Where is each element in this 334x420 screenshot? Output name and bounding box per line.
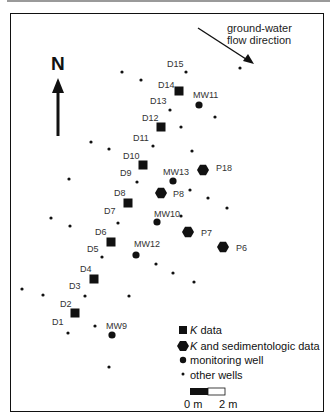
other-well-marker — [20, 287, 23, 290]
other-well-marker — [154, 262, 157, 265]
square-marker-icon — [179, 326, 187, 334]
hexagon-marker-icon — [177, 341, 189, 351]
well-label: D6 — [95, 227, 107, 237]
well-label: D10 — [123, 151, 140, 161]
other-well-marker — [184, 70, 187, 73]
k-data-well-marker — [107, 238, 116, 247]
other-well-marker — [190, 149, 193, 152]
well-label: D13 — [150, 96, 167, 106]
north-arrow-icon — [52, 78, 64, 93]
other-well-marker — [116, 221, 119, 224]
well-label: MW12 — [134, 239, 160, 249]
other-well-marker — [225, 206, 228, 209]
well-label: P6 — [236, 243, 247, 253]
other-well-marker — [135, 180, 138, 183]
k-data-well-marker — [139, 161, 148, 170]
well-label: P8 — [173, 189, 184, 199]
legend-item-other-wells: other wells — [182, 369, 244, 381]
well-label: P18 — [216, 163, 232, 173]
scale-bar: 0 m 2 m — [184, 388, 237, 410]
other-well-marker — [171, 271, 174, 274]
k-data-well-marker — [175, 87, 184, 96]
other-well-marker — [68, 224, 71, 227]
monitoring-well-marker — [132, 251, 139, 258]
k-data-well-marker — [71, 309, 80, 318]
other-well-marker — [213, 115, 216, 118]
well-label: P7 — [201, 228, 212, 238]
legend-label: other wells — [190, 369, 243, 381]
legend-item-monitoring-well: monitoring well — [180, 354, 264, 366]
circle-marker-icon — [180, 357, 186, 363]
other-well-marker — [168, 108, 171, 111]
other-well-marker — [93, 324, 96, 327]
well-label: D7 — [104, 206, 116, 216]
other-well-marker — [107, 365, 110, 368]
k-sed-well-marker — [155, 188, 167, 198]
other-well-marker — [120, 70, 123, 73]
well-label: D2 — [60, 299, 72, 309]
legend-label: data — [197, 324, 222, 336]
flow-label-line2: flow direction — [227, 34, 291, 46]
scale-bar-black — [190, 388, 208, 395]
other-well-marker — [107, 147, 110, 150]
other-well-marker — [67, 177, 70, 180]
other-well-marker — [66, 331, 69, 334]
dot-marker-icon — [182, 373, 185, 376]
other-well-marker — [100, 255, 103, 258]
scale-bar-white — [208, 388, 225, 395]
svg-text:K and sedimentologic data: K and sedimentologic data — [190, 340, 321, 352]
monitoring-well-marker — [153, 218, 160, 225]
other-well-marker — [49, 216, 52, 219]
other-well-marker — [192, 280, 195, 283]
well-label: D12 — [142, 113, 159, 123]
flow-label-line1: ground-water — [227, 22, 292, 34]
k-sed-well-marker — [217, 242, 229, 252]
k-data-well-marker — [124, 199, 133, 208]
well-label: D11 — [133, 133, 149, 143]
well-label: MW9 — [106, 321, 127, 331]
well-label: MW10 — [154, 209, 180, 219]
north-label: N — [51, 53, 65, 74]
monitoring-well-marker — [169, 177, 176, 184]
legend: K data K and sedimentologic data monitor… — [177, 324, 321, 410]
monitoring-well-marker — [195, 101, 202, 108]
other-well-marker — [151, 144, 154, 147]
k-data-well-marker — [90, 275, 99, 284]
well-label: D5 — [87, 244, 99, 254]
flow-arrow-icon — [243, 54, 254, 64]
well-label: D15 — [167, 59, 184, 69]
well-label: MW11 — [193, 90, 218, 100]
other-well-marker — [206, 196, 209, 199]
other-well-marker — [83, 294, 86, 297]
well-label: D14 — [158, 80, 175, 90]
legend-label: and sedimentologic data — [197, 340, 320, 352]
well-label: D3 — [69, 281, 81, 291]
well-label: D9 — [120, 168, 132, 178]
other-well-marker — [41, 293, 44, 296]
other-well-marker — [89, 140, 92, 143]
other-well-marker — [238, 66, 241, 69]
flow-direction: ground-water flow direction — [198, 22, 292, 64]
well-label: D4 — [80, 264, 92, 274]
well-label: D8 — [114, 188, 126, 198]
k-sed-well-marker — [182, 227, 194, 237]
well-label: D1 — [52, 317, 64, 327]
legend-label: monitoring well — [190, 354, 263, 366]
other-well-marker — [179, 125, 182, 128]
north-arrow: N — [51, 53, 65, 136]
monitoring-well-marker — [108, 331, 115, 338]
legend-item-k-data: K data — [179, 324, 223, 336]
svg-text:K data: K data — [190, 324, 223, 336]
well-labels: D14D12D10D8D6D4D2P18P8P7P6MW11MW13MW10MW… — [52, 59, 247, 331]
k-sed-well-marker — [197, 165, 209, 175]
k-data-well-marker — [157, 123, 166, 132]
other-well-marker — [188, 188, 191, 191]
scale-label-0: 0 m — [184, 398, 202, 410]
scale-label-2: 2 m — [219, 398, 237, 410]
other-well-marker — [139, 78, 142, 81]
legend-item-k-sed-data: K and sedimentologic data — [177, 340, 321, 352]
well-map: N ground-water flow direction D14D12D10D… — [0, 0, 334, 420]
well-label: MW13 — [163, 167, 189, 177]
other-well-marker — [127, 294, 130, 297]
